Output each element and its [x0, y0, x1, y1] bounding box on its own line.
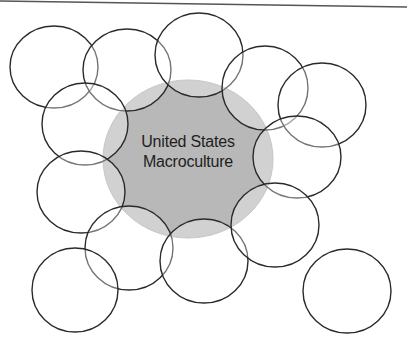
macroculture-label-line2: Macroculture	[103, 152, 273, 172]
subculture-circle-11	[231, 183, 319, 267]
subculture-circle-13	[303, 249, 391, 333]
macroculture-label: United States Macroculture	[103, 132, 273, 172]
subculture-circle-12	[32, 248, 118, 332]
macroculture-label-line1: United States	[103, 132, 273, 152]
top-rule	[0, 1, 407, 7]
